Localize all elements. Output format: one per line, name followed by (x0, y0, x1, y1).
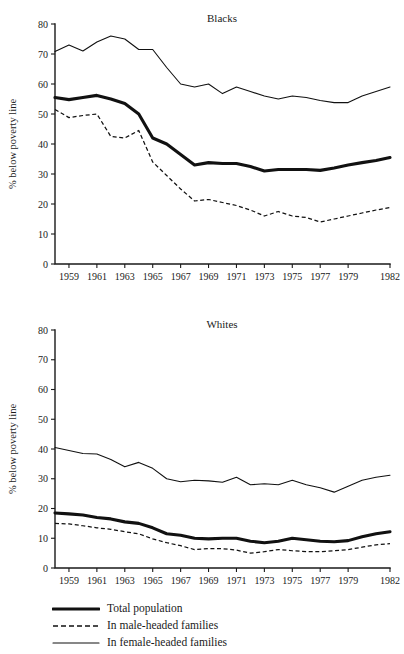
x-tick-label: 1959 (59, 575, 79, 586)
legend-item-female-headed: In female-headed families (0, 634, 404, 651)
y-tick-label: 80 (38, 325, 48, 336)
x-tick-label: 1967 (171, 271, 191, 282)
chart-legend: Total population In male-headed families… (0, 600, 404, 654)
y-tick-label: 40 (38, 139, 48, 150)
x-tick-label: 1969 (199, 271, 219, 282)
x-tick-label: 1961 (87, 271, 107, 282)
x-tick-label: 1965 (143, 271, 163, 282)
y-axis-label: % below poverty line (7, 404, 18, 494)
y-tick-label: 60 (38, 79, 48, 90)
series-line-total-population (55, 95, 390, 171)
poverty-line-figure: Blacks% below poverty line01020304050607… (0, 0, 404, 654)
chart-title: Whites (206, 318, 237, 330)
chart-panel-blacks: Blacks% below poverty line01020304050607… (0, 0, 404, 300)
x-tick-label: 1961 (87, 575, 107, 586)
x-tick-label: 1975 (282, 575, 302, 586)
y-tick-label: 50 (38, 414, 48, 425)
legend-label-male-headed: In male-headed families (107, 620, 218, 632)
y-tick-label: 20 (38, 503, 48, 514)
chart-svg-blacks: Blacks% below poverty line01020304050607… (0, 0, 404, 300)
legend-item-male-headed: In male-headed families (0, 617, 404, 634)
y-tick-label: 40 (38, 444, 48, 455)
legend-swatch-dashed (52, 620, 100, 632)
x-tick-label: 1975 (282, 271, 302, 282)
x-tick-label: 1963 (115, 575, 135, 586)
y-tick-label: 10 (38, 229, 48, 240)
y-tick-label: 50 (38, 109, 48, 120)
series-line-total-population (55, 513, 390, 543)
legend-swatch-thick-solid (52, 603, 100, 615)
chart-svg-whites: Whites% below poverty line01020304050607… (0, 310, 404, 600)
x-tick-label: 1979 (338, 575, 358, 586)
legend-label-total-population: Total population (107, 603, 183, 615)
y-tick-label: 70 (38, 49, 48, 60)
x-tick-label: 1977 (310, 271, 330, 282)
x-tick-label: 1971 (226, 575, 246, 586)
x-tick-label: 1973 (254, 271, 274, 282)
y-tick-label: 60 (38, 384, 48, 395)
legend-item-total-population: Total population (0, 600, 404, 617)
y-tick-label: 20 (38, 199, 48, 210)
chart-title: Blacks (207, 12, 237, 24)
y-tick-label: 80 (38, 19, 48, 30)
chart-panel-whites: Whites% below poverty line01020304050607… (0, 310, 404, 600)
y-tick-label: 0 (43, 259, 48, 270)
x-tick-label: 1982 (380, 575, 400, 586)
y-tick-label: 70 (38, 354, 48, 365)
series-line-female-headed (55, 448, 390, 493)
x-tick-label: 1979 (338, 271, 358, 282)
x-tick-label: 1967 (171, 575, 191, 586)
chart-axes (55, 24, 390, 264)
chart-axes (55, 330, 390, 568)
legend-swatch-thin-solid (52, 637, 100, 649)
x-tick-label: 1965 (143, 575, 163, 586)
y-tick-label: 30 (38, 473, 48, 484)
x-tick-label: 1963 (115, 271, 135, 282)
x-tick-label: 1982 (380, 271, 400, 282)
y-tick-label: 10 (38, 533, 48, 544)
x-tick-label: 1977 (310, 575, 330, 586)
series-line-female-headed (55, 36, 390, 103)
y-axis-label: % below poverty line (7, 99, 18, 189)
y-tick-label: 30 (38, 169, 48, 180)
legend-label-female-headed: In female-headed families (107, 637, 227, 649)
x-tick-label: 1971 (226, 271, 246, 282)
x-tick-label: 1973 (254, 575, 274, 586)
y-tick-label: 0 (43, 563, 48, 574)
x-tick-label: 1959 (59, 271, 79, 282)
x-tick-label: 1969 (199, 575, 219, 586)
